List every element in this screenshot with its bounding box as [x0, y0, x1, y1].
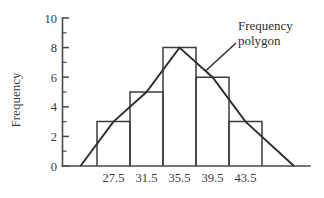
y-tick-label-0: 0	[51, 160, 57, 174]
frequency-polygon-figure: 0 2 4 6 8 10 Frequency 27.5 31.5 35.5 39…	[0, 0, 324, 198]
x-tick-label-31-5: 31.5	[136, 171, 158, 185]
annotation-label-line1: Frequency	[238, 18, 293, 33]
y-tick-label-10: 10	[45, 12, 58, 26]
y-tick-label-8: 8	[51, 41, 57, 55]
bar-39-5	[196, 77, 229, 166]
y-tick-label-2: 2	[51, 130, 57, 144]
bar-35-5	[163, 48, 196, 166]
x-tick-label-39-5: 39.5	[202, 171, 224, 185]
x-tick-label-43-5: 43.5	[235, 171, 257, 185]
histogram-bars	[97, 48, 262, 166]
y-axis-title: Frequency	[8, 72, 23, 127]
x-tick-label-27-5: 27.5	[103, 171, 125, 185]
x-tick-label-35-5: 35.5	[169, 171, 191, 185]
annotation-label-line2: polygon	[238, 33, 281, 48]
y-tick-label-4: 4	[51, 100, 58, 114]
y-tick-label-6: 6	[51, 71, 57, 85]
bar-43-5	[229, 122, 262, 166]
histogram-chart: 0 2 4 6 8 10 Frequency 27.5 31.5 35.5 39…	[0, 0, 324, 198]
bar-27-5	[97, 122, 130, 166]
annotation-leader-line	[206, 43, 237, 71]
